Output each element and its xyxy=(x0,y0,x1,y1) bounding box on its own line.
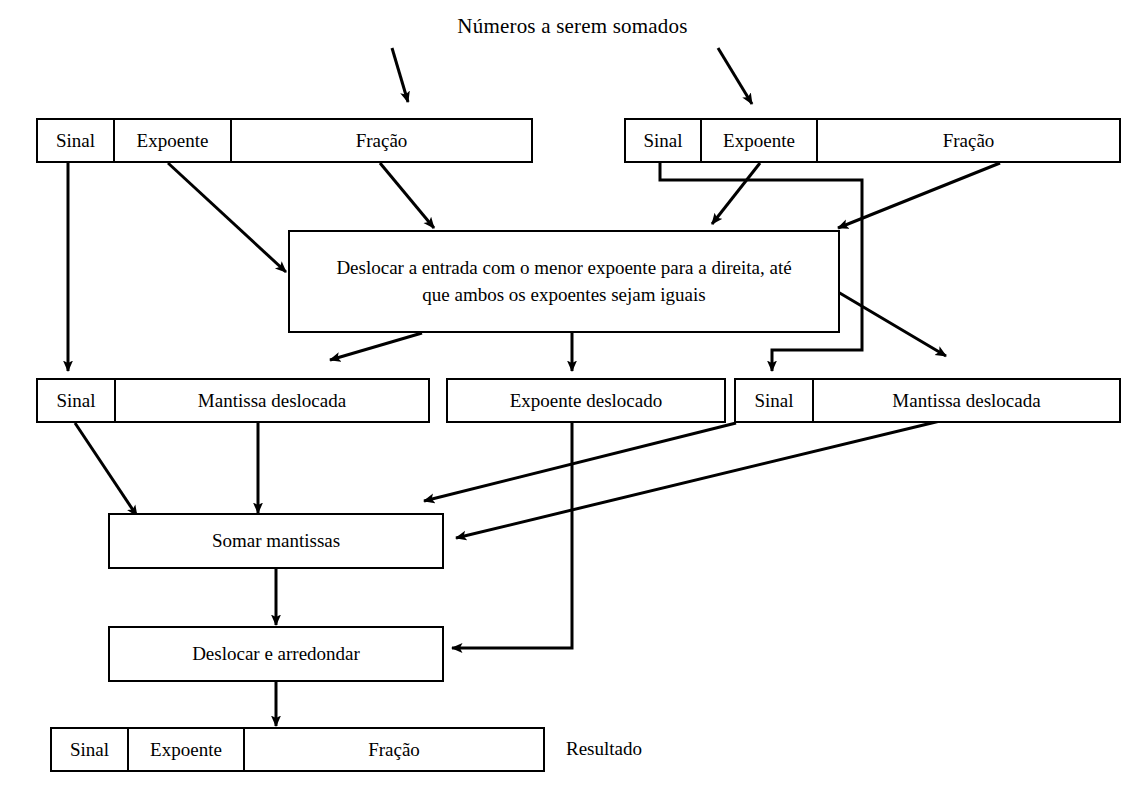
operand-right-sign-cell: Sinal xyxy=(626,120,700,161)
wire-left-fraction-to-align xyxy=(380,163,434,228)
operand-left-exponent-cell: Expoente xyxy=(113,120,230,161)
shifted-left-sign-cell: Sinal xyxy=(38,380,114,421)
wire-right-exponent-to-align xyxy=(712,163,760,224)
operand-right-exponent-cell: Expoente xyxy=(700,120,816,161)
wire-align-to-left-mantissa xyxy=(330,333,422,360)
diagram-canvas: Números a serem somados xyxy=(0,0,1145,805)
operand-left-sign-cell: Sinal xyxy=(38,120,113,161)
wire-shifted-sign-to-add xyxy=(75,423,137,516)
result-box: Sinal Expoente Fração xyxy=(50,727,545,772)
wire-title-to-left xyxy=(392,48,408,102)
operand-left-box: Sinal Expoente Fração xyxy=(36,118,533,163)
shifted-left-mantissa-cell: Mantissa deslocada xyxy=(114,380,428,421)
align-exponents-label: Deslocar a entrada com o menor expoente … xyxy=(319,255,809,307)
wire-left-exponent-to-align xyxy=(168,163,286,272)
add-mantissas-box: Somar mantissas xyxy=(108,513,444,569)
shifted-right-box: Sinal Mantissa deslocada xyxy=(734,378,1121,423)
operand-right-fraction-cell: Fração xyxy=(816,120,1119,161)
shifted-exponent-cell: Expoente deslocado xyxy=(448,380,724,421)
wire-right-fraction-to-align xyxy=(838,163,1000,228)
wire-title-to-right xyxy=(718,48,752,104)
wire-right-mantissa-to-add xyxy=(456,421,940,538)
shift-and-round-box: Deslocar e arredondar xyxy=(108,626,444,682)
shifted-right-mantissa-cell: Mantissa deslocada xyxy=(812,380,1119,421)
result-exponent-cell: Expoente xyxy=(127,729,243,770)
result-fraction-cell: Fração xyxy=(243,729,543,770)
result-sign-cell: Sinal xyxy=(52,729,127,770)
wire-shifted-exponent-to-round xyxy=(452,423,572,648)
diagram-title: Números a serem somados xyxy=(0,14,1145,39)
shift-and-round-label: Deslocar e arredondar xyxy=(192,641,360,667)
result-label: Resultado xyxy=(566,738,642,760)
wire-right-sign-to-add xyxy=(424,423,736,501)
wire-align-to-right-mantissa xyxy=(838,292,946,356)
add-mantissas-label: Somar mantissas xyxy=(212,528,340,554)
align-exponents-box: Deslocar a entrada com o menor expoente … xyxy=(288,230,840,333)
shifted-exponent-box: Expoente deslocado xyxy=(446,378,726,423)
operand-left-fraction-cell: Fração xyxy=(230,120,531,161)
shifted-right-sign-cell: Sinal xyxy=(736,380,812,421)
shifted-left-box: Sinal Mantissa deslocada xyxy=(36,378,430,423)
operand-right-box: Sinal Expoente Fração xyxy=(624,118,1121,163)
